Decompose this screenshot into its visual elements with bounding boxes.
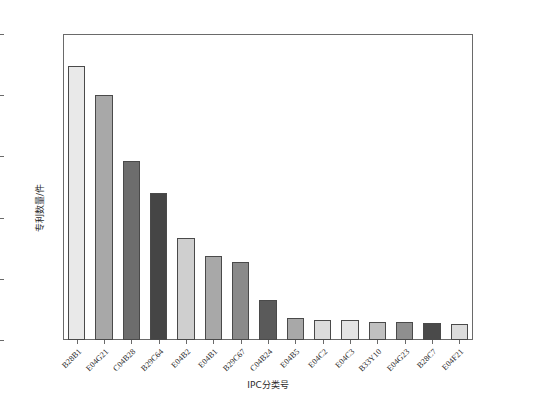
x-axis-tick-mark bbox=[213, 340, 214, 344]
bar-B28B1[interactable] bbox=[68, 66, 85, 340]
bar-E04C3[interactable] bbox=[341, 320, 358, 340]
x-axis-tick-mark bbox=[186, 340, 187, 344]
bar-E04C2[interactable] bbox=[314, 320, 331, 340]
x-axis-label-B28C7: B28C7 bbox=[415, 347, 438, 370]
x-axis-tick-mark bbox=[405, 340, 406, 344]
x-axis-label-E04B5: E04B5 bbox=[279, 347, 302, 370]
bar-B29C67[interactable] bbox=[232, 262, 249, 340]
y-axis-tick-mark bbox=[0, 34, 4, 35]
bar-slot bbox=[254, 34, 281, 340]
bar-chart-figure: 专利数量/件 050100150200250 B28B1E04G21C04B28… bbox=[0, 0, 536, 416]
x-axis-tick-mark bbox=[268, 340, 269, 344]
bar-E04G23[interactable] bbox=[396, 322, 413, 340]
bar-slot bbox=[309, 34, 336, 340]
bar-slot bbox=[418, 34, 445, 340]
bar-C04B28[interactable] bbox=[123, 161, 140, 340]
y-axis-tick-mark bbox=[0, 340, 4, 341]
bar-slot bbox=[200, 34, 227, 340]
x-axis-tick-mark bbox=[159, 340, 160, 344]
x-axis-tick-mark bbox=[350, 340, 351, 344]
x-axis-title: IPC分类号 bbox=[0, 378, 536, 391]
bar-slot bbox=[63, 34, 90, 340]
bar-C04B24[interactable] bbox=[259, 300, 276, 340]
bar-slot bbox=[364, 34, 391, 340]
y-axis-tick-mark bbox=[0, 279, 4, 280]
x-axis-tick-mark bbox=[459, 340, 460, 344]
x-axis-tick-mark bbox=[77, 340, 78, 344]
bar-slot bbox=[145, 34, 172, 340]
y-axis-tick-mark bbox=[0, 95, 4, 96]
bar-E04B2[interactable] bbox=[177, 238, 194, 340]
bar-slot bbox=[172, 34, 199, 340]
x-axis-label-E04B1: E04B1 bbox=[197, 347, 220, 370]
bars-container bbox=[63, 34, 473, 340]
bar-E04F21[interactable] bbox=[451, 324, 468, 340]
y-axis-tick-mark bbox=[0, 156, 4, 157]
x-axis-tick-mark bbox=[104, 340, 105, 344]
bar-slot bbox=[391, 34, 418, 340]
bar-slot bbox=[227, 34, 254, 340]
y-axis: 专利数量/件 050100150200250 bbox=[0, 0, 63, 416]
y-axis-title: 专利数量/件 bbox=[33, 184, 46, 232]
x-axis-label-E04C3: E04C3 bbox=[333, 347, 356, 370]
bar-E04G21[interactable] bbox=[95, 95, 112, 340]
bar-E04B5[interactable] bbox=[287, 318, 304, 340]
x-axis-label-B28B1: B28B1 bbox=[60, 347, 83, 370]
x-axis-tick-mark bbox=[377, 340, 378, 344]
bar-B33Y10[interactable] bbox=[369, 322, 386, 340]
x-axis-label-E04C2: E04C2 bbox=[306, 347, 329, 370]
x-axis-tick-mark bbox=[432, 340, 433, 344]
bar-slot bbox=[90, 34, 117, 340]
bar-B29C64[interactable] bbox=[150, 193, 167, 340]
x-axis-label-E04B2: E04B2 bbox=[170, 347, 193, 370]
bar-slot bbox=[282, 34, 309, 340]
bar-B28C7[interactable] bbox=[423, 323, 440, 340]
bar-slot bbox=[446, 34, 473, 340]
bar-slot bbox=[336, 34, 363, 340]
x-axis-tick-mark bbox=[295, 340, 296, 344]
y-axis-tick-mark bbox=[0, 218, 4, 219]
bar-E04B1[interactable] bbox=[205, 256, 222, 340]
x-axis-tick-mark bbox=[131, 340, 132, 344]
bar-slot bbox=[118, 34, 145, 340]
x-axis-tick-mark bbox=[323, 340, 324, 344]
x-axis-tick-mark bbox=[241, 340, 242, 344]
